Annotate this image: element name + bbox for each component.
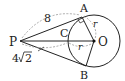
label-b: B	[80, 69, 88, 81]
label-a: A	[79, 2, 89, 15]
label-o: O	[98, 35, 108, 49]
geometry-diagram: P O A B C 8 r r 4 2	[0, 0, 125, 81]
length-arc-pa	[22, 14, 80, 38]
label-2: 2	[25, 52, 32, 65]
label-length-4root2: 4 2	[12, 52, 32, 65]
label-4: 4	[12, 52, 19, 65]
length-arc-pc	[22, 43, 67, 48]
label-length-8: 8	[44, 12, 51, 25]
center-dot	[92, 39, 95, 42]
label-r-ao: r	[93, 19, 98, 29]
label-r-co: r	[78, 42, 83, 52]
segment-pa	[20, 17, 82, 41]
label-p: P	[9, 35, 17, 49]
label-c: C	[60, 27, 68, 40]
